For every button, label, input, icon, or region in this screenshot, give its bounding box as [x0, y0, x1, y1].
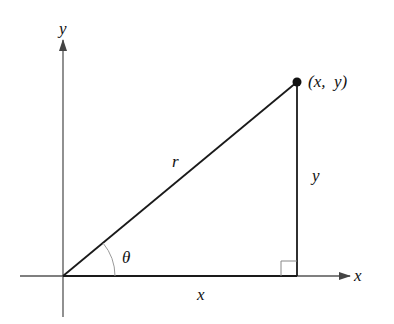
horizontal-side-label: x	[197, 286, 205, 303]
diagram-canvas	[0, 0, 394, 324]
point-label: (x, y)	[308, 73, 347, 90]
hypotenuse-label: r	[172, 153, 179, 170]
angle-arc	[103, 243, 115, 276]
hypotenuse	[63, 82, 297, 276]
x-axis-label: x	[354, 267, 362, 284]
vertical-side-label: y	[312, 167, 320, 184]
point-xy	[293, 78, 302, 87]
trig-diagram: y x (x, y) r y x θ	[0, 0, 394, 324]
right-angle-marker	[281, 261, 297, 276]
y-axis-label: y	[59, 20, 67, 37]
angle-label: θ	[122, 249, 130, 266]
